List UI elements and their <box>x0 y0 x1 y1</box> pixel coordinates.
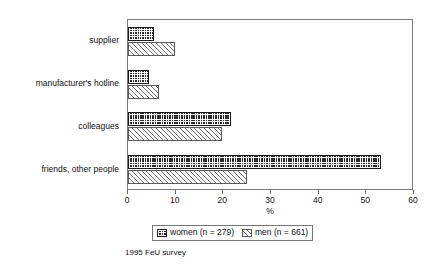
legend-label-men: men (n = 661) <box>255 227 308 238</box>
chart-legend: women (n = 279) men (n = 661) <box>152 225 313 241</box>
x-tick-label: 30 <box>265 195 274 205</box>
category-label: colleagues <box>0 121 119 131</box>
category-axis-labels: suppliermanufacturer's hotlinecolleagues… <box>0 19 123 190</box>
x-axis-ticks: 0102030405060 <box>127 190 413 195</box>
x-tick-label: 20 <box>218 195 227 205</box>
bar-chart-figure: suppliermanufacturer's hotlinecolleagues… <box>0 0 442 272</box>
bar-men <box>128 170 247 184</box>
legend-swatch-men-icon <box>242 229 252 237</box>
plot-area <box>127 19 413 190</box>
bars-layer <box>128 20 412 189</box>
legend-swatch-women-icon <box>157 229 167 237</box>
category-label: manufacturer's hotline <box>0 78 119 88</box>
x-tick-mark <box>365 190 366 194</box>
bar-men <box>128 85 159 99</box>
bar-women <box>128 70 149 84</box>
x-tick-mark <box>127 190 128 194</box>
bar-men <box>128 42 175 56</box>
x-tick-label: 10 <box>170 195 179 205</box>
bar-women <box>128 112 231 126</box>
x-tick-label: 50 <box>361 195 370 205</box>
x-tick-mark <box>222 190 223 194</box>
x-tick-mark <box>270 190 271 194</box>
x-tick-label: 60 <box>408 195 417 205</box>
category-label: friends, other people <box>0 164 119 174</box>
bar-women <box>128 155 381 169</box>
x-tick-label: 0 <box>125 195 130 205</box>
category-label: supplier <box>0 35 119 45</box>
figure-caption: 1995 FeU survey <box>125 248 186 257</box>
legend-label-women: women (n = 279) <box>170 227 234 238</box>
x-axis-title: % <box>127 206 413 216</box>
x-tick-mark <box>318 190 319 194</box>
bar-women <box>128 27 154 41</box>
legend-entry-men: men (n = 661) <box>242 227 308 238</box>
bar-men <box>128 127 222 141</box>
x-tick-mark <box>413 190 414 194</box>
legend-entry-women: women (n = 279) <box>157 227 234 238</box>
x-tick-mark <box>175 190 176 194</box>
x-tick-label: 40 <box>313 195 322 205</box>
